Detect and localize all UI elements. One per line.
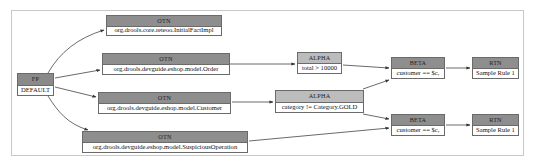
node-rtn-2[interactable]: RTN Sample Rule 1 (472, 114, 519, 136)
node-label: total > 10000 (298, 64, 341, 73)
node-otn-customer[interactable]: OTN org.drools.devguide.eshop.model.Cust… (98, 92, 231, 114)
node-label: org.drools.devguide.eshop.model.Customer (99, 104, 230, 113)
node-rtn-1[interactable]: RTN Sample Rule 1 (472, 57, 519, 79)
node-type-label: OTN (83, 132, 247, 143)
node-beta-2[interactable]: BETA customer == $c, (391, 114, 445, 136)
node-label: customer == $c, (392, 69, 444, 78)
node-type-label: FP (18, 74, 53, 86)
node-beta-1[interactable]: BETA customer == $c, (391, 57, 445, 79)
node-type-label: OTN (99, 93, 230, 104)
node-label: category != Category.GOLD (276, 103, 363, 113)
node-alpha-category[interactable]: ALPHA category != Category.GOLD (275, 90, 364, 113)
node-type-label: RTN (473, 58, 518, 69)
node-otn-order[interactable]: OTN org.drools.devguide.eshop.model.Orde… (102, 53, 230, 75)
node-type-label: RTN (473, 115, 518, 126)
node-label: org.drools.devguide.eshop.model.Order (103, 65, 229, 74)
node-type-label: BETA (392, 58, 444, 69)
node-alpha-total[interactable]: ALPHA total > 10000 (297, 52, 342, 74)
node-type-label: BETA (392, 115, 444, 126)
node-label: Sample Rule 1 (473, 126, 518, 135)
node-otn-initial-fact[interactable]: OTN org.drools.core.reteoo.InitialFactIm… (106, 15, 222, 36)
node-otn-suspicious-operation[interactable]: OTN org.drools.devguide.eshop.model.Susp… (82, 131, 248, 153)
node-fp[interactable]: FP DEFAULT (17, 73, 54, 96)
node-type-label: OTN (103, 54, 229, 65)
node-type-label: OTN (107, 16, 221, 27)
node-label: Sample Rule 1 (473, 69, 518, 78)
node-label: org.drools.devguide.eshop.model.Suspicio… (83, 143, 247, 152)
node-label: customer == $c, (392, 126, 444, 135)
node-type-label: ALPHA (276, 91, 363, 103)
node-type-label: ALPHA (298, 53, 341, 64)
node-label: org.drools.core.reteoo.InitialFactImpl (107, 27, 221, 36)
node-label: DEFAULT (18, 86, 53, 96)
